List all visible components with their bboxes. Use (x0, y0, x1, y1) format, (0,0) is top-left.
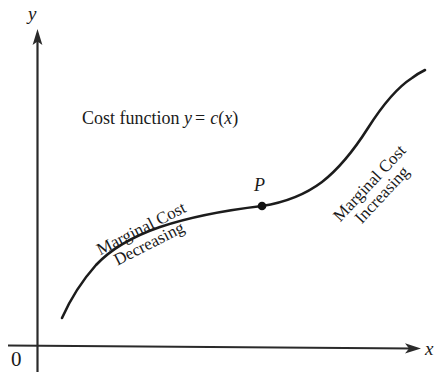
curve-title-close-paren: ) (232, 108, 238, 128)
curve-title-independent-var: x (224, 108, 232, 128)
curve-title-equals: = (195, 108, 205, 128)
curve-title: Cost function y=c(x) (82, 109, 238, 127)
cost-function-figure: y x 0 Cost function y=c(x) P Marginal Co… (0, 0, 441, 372)
curve-title-dependent-var: y (184, 108, 192, 128)
x-axis-line (8, 346, 412, 349)
y-axis-label: y (28, 4, 36, 23)
curve-title-prefix: Cost function (82, 108, 180, 128)
curve-title-function-name: c (210, 108, 218, 128)
inflection-point-marker (258, 202, 267, 211)
origin-label: 0 (11, 349, 22, 370)
point-p-label: P (254, 176, 265, 194)
x-axis-label: x (425, 339, 433, 358)
